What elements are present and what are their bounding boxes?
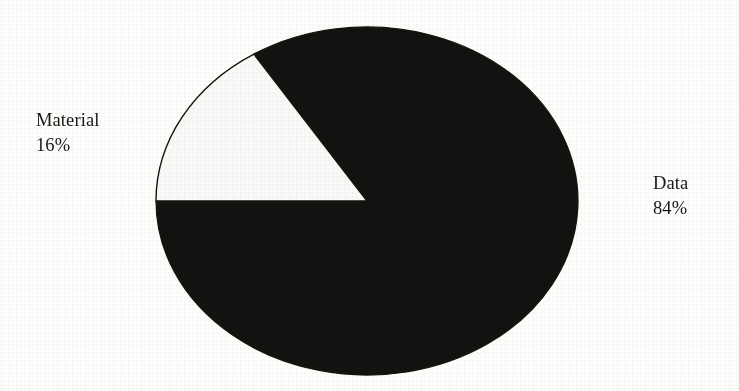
pie-label-data-name: Data bbox=[653, 171, 688, 196]
pie-label-material: Material 16% bbox=[36, 108, 99, 157]
pie-chart-graphic bbox=[0, 0, 739, 391]
pie-chart-figure: Material 16% Data 84% bbox=[0, 0, 739, 391]
pie-label-data: Data 84% bbox=[653, 171, 688, 220]
pie-label-material-percent: 16% bbox=[36, 133, 99, 158]
pie-label-data-percent: 84% bbox=[653, 196, 688, 221]
pie-label-material-name: Material bbox=[36, 108, 99, 133]
